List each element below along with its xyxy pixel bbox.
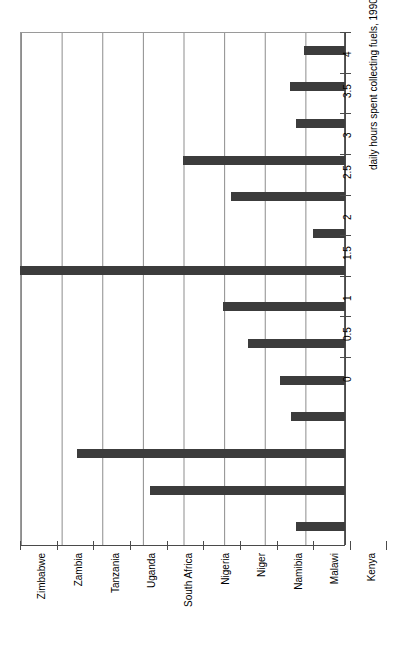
- bar: [296, 522, 345, 531]
- bar: [77, 449, 345, 458]
- bar: [248, 339, 346, 348]
- category-tick-mark: [313, 541, 314, 550]
- category-label: Kenya: [367, 553, 377, 581]
- category-label: Tanzania: [111, 553, 121, 593]
- bar: [304, 46, 345, 55]
- bar: [150, 486, 345, 495]
- value-tick-label: 0: [343, 342, 353, 382]
- value-tick-label: 1: [343, 261, 353, 301]
- bar: [183, 156, 346, 165]
- bar: [313, 229, 346, 238]
- bar: [20, 266, 345, 275]
- category-tick-mark: [277, 541, 278, 550]
- category-label: South Africa: [184, 553, 194, 607]
- value-tick-label: 1.5: [343, 220, 353, 260]
- bar: [231, 192, 345, 201]
- category-axis-spine: [20, 545, 345, 546]
- bar-chart: 00.511.522.533.54 daily hours spent coll…: [0, 0, 403, 655]
- category-tick-mark: [93, 541, 94, 550]
- category-tick-mark: [57, 541, 58, 550]
- value-tick-label: 2.5: [343, 139, 353, 179]
- category-label: Zimbabwe: [37, 553, 47, 599]
- bar-series: [20, 32, 345, 545]
- value-tick-label: 0.5: [343, 301, 353, 341]
- value-tick-label: 2: [343, 180, 353, 220]
- category-tick-mark: [130, 541, 131, 550]
- category-label: Malawi: [330, 553, 340, 584]
- category-tick-mark: [350, 541, 351, 550]
- category-tick-mark: [240, 541, 241, 550]
- category-tick-mark: [203, 541, 204, 550]
- value-tick-label: 3: [343, 98, 353, 138]
- category-tick-mark: [20, 541, 21, 550]
- category-label: Namibia: [294, 553, 304, 590]
- category-label: Uganda: [147, 553, 157, 588]
- category-label: Nigeria: [221, 553, 231, 585]
- category-label: Zambia: [74, 553, 84, 586]
- category-label: Niger: [257, 553, 267, 577]
- category-tick-mark: [167, 541, 168, 550]
- bar: [223, 302, 345, 311]
- value-tick-label: 4: [343, 17, 353, 57]
- category-tick-mark: [386, 541, 387, 550]
- value-axis-title: daily hours spent collecting fuels, 1990…: [368, 0, 379, 170]
- bar: [290, 82, 345, 91]
- bar: [280, 376, 345, 385]
- bar: [291, 412, 345, 421]
- bar: [296, 119, 345, 128]
- category-axis: ZimbabweZambiaTanzaniaUgandaSouth Africa…: [20, 545, 345, 655]
- value-tick-label: 3.5: [343, 58, 353, 98]
